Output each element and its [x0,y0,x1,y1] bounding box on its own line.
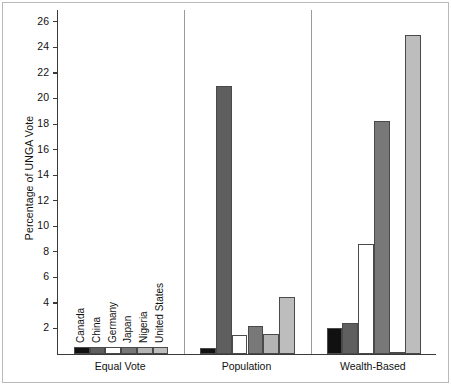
y-axis-tick-label: 14 [37,168,49,180]
y-axis-tick-label: 2 [43,321,49,333]
bar-japan-equal-vote [121,347,137,354]
bar-united-states-equal-vote [153,347,169,354]
y-axis-tick-label: 18 [37,117,49,129]
y-axis-tick-mark [53,175,58,176]
bar-canada-population [200,348,216,354]
country-label-canada: Canada [75,308,86,343]
bar-united-states-population [279,297,295,355]
plot-area: 2468101214161820222426 CanadaChinaGerman… [57,10,436,355]
y-axis-tick-label: 6 [43,270,49,282]
country-label-japan: Japan [122,316,133,343]
panel-divider [184,10,185,354]
country-label-china: China [91,317,102,343]
bar-nigeria-wealth-based [390,352,406,354]
bar-canada-equal-vote [74,347,90,354]
y-axis-tick-mark [53,124,58,125]
y-axis-tick-label: 4 [43,296,49,308]
bar-china-population [216,86,232,354]
country-label-nigeria: Nigeria [138,312,149,344]
y-axis-tick-label: 20 [37,91,49,103]
bar-nigeria-equal-vote [137,347,153,354]
bar-germany-wealth-based [358,244,374,354]
y-axis-tick-mark [53,200,58,201]
country-label-united-states: United States [154,283,165,343]
bar-germany-population [232,335,248,354]
y-axis-tick-mark [53,72,58,73]
bar-united-states-wealth-based [405,35,421,354]
y-axis-tick-label: 24 [37,40,49,52]
y-axis-tick-mark [53,47,58,48]
country-label-germany: Germany [107,302,118,343]
y-axis-tick-mark [53,251,58,252]
y-axis-tick-mark [53,302,58,303]
y-axis-title: Percentage of UNGA Vote [23,83,35,273]
panel-label-population: Population [183,360,309,372]
panel-divider [311,10,312,354]
panel-label-equal-vote: Equal Vote [57,360,183,372]
y-axis-tick-mark [53,98,58,99]
y-axis-tick-mark [53,21,58,22]
panel-label-wealth-based: Wealth-Based [310,360,436,372]
y-axis-tick-mark [53,149,58,150]
bar-japan-wealth-based [374,121,390,354]
bar-china-wealth-based [342,323,358,354]
y-axis-tick-mark [53,328,58,329]
bar-japan-population [248,326,264,354]
bar-nigeria-population [263,334,279,354]
y-axis-tick-label: 22 [37,66,49,78]
y-axis-tick-mark [53,226,58,227]
bar-germany-equal-vote [105,347,121,354]
y-axis-tick-label: 8 [43,245,49,257]
y-axis-tick-mark [53,277,58,278]
y-axis-tick-label: 12 [37,194,49,206]
y-axis-tick-label: 10 [37,219,49,231]
bar-canada-wealth-based [327,328,343,354]
chart-container: Percentage of UNGA Vote 2468101214161820… [0,0,451,389]
bar-china-equal-vote [90,347,106,354]
y-axis-tick-label: 26 [37,15,49,27]
y-axis-tick-label: 16 [37,143,49,155]
